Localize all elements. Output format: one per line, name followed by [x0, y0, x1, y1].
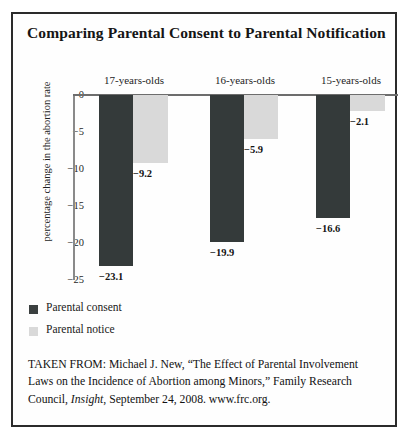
plot-area: percentage change in the abortion rate 0…	[13, 60, 395, 298]
value-label-consent-16: −19.9	[210, 247, 234, 258]
chart-title: Comparing Parental Consent to Parental N…	[27, 24, 383, 42]
bar-consent-16	[210, 95, 244, 242]
y-axis-line	[73, 94, 75, 280]
value-label-notice-16: −5.9	[244, 144, 263, 155]
legend-label-notice: Parental notice	[46, 323, 115, 335]
legend-swatch-consent-icon	[29, 305, 38, 314]
chart-legend: Parental consent Parental notice	[29, 302, 369, 346]
value-label-notice-15: −2.1	[350, 116, 369, 127]
bar-notice-15	[350, 95, 385, 111]
legend-item-notice: Parental notice	[29, 324, 369, 346]
bar-notice-16	[244, 95, 278, 139]
source-citation: TAKEN FROM: Michael J. New, “The Effect …	[28, 356, 380, 408]
y-tick-5: −5	[50, 127, 84, 138]
bar-consent-17	[99, 95, 133, 266]
group-label-15: 15-years-olds	[308, 74, 394, 86]
group-label-17: 17-years-olds	[91, 74, 177, 86]
value-label-consent-15: −16.6	[316, 223, 340, 234]
legend-item-consent: Parental consent	[29, 302, 369, 324]
source-suffix: , September 24, 2008. www.frc.org.	[103, 393, 270, 406]
group-label-16: 16-years-olds	[202, 74, 288, 86]
y-tick-15: −15	[50, 201, 84, 212]
y-tick-25: −25	[50, 275, 84, 286]
legend-swatch-notice-icon	[29, 327, 38, 336]
figure-panel: Comparing Parental Consent to Parental N…	[11, 12, 397, 427]
legend-label-consent: Parental consent	[46, 301, 122, 313]
value-label-consent-17: −23.1	[99, 271, 123, 282]
bar-consent-15	[316, 95, 350, 218]
value-label-notice-17: −9.2	[133, 168, 152, 179]
source-publication: Insight	[71, 393, 103, 406]
bar-notice-17	[133, 95, 168, 163]
y-tick-10: −10	[50, 164, 84, 175]
y-tick-20: −20	[50, 238, 84, 249]
